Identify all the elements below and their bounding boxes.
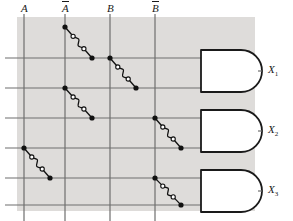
gate-x2-body bbox=[201, 110, 262, 152]
fuse-a-row5-open-circle-lower bbox=[40, 167, 44, 171]
fuse-b-row2-open-circle-lower bbox=[126, 77, 130, 81]
output-label-X3: X3 bbox=[268, 183, 278, 198]
fuse-bbar-row4-open-circle-lower bbox=[171, 137, 175, 141]
output-label-X2: X2 bbox=[268, 123, 278, 138]
fuse-b-row2-open-circle-upper bbox=[116, 65, 120, 69]
column-label-B: B bbox=[107, 2, 114, 14]
fuse-abar-row1-open-circle-lower bbox=[82, 47, 86, 51]
fuse-abar-row3-open-circle-lower bbox=[82, 107, 86, 111]
fuse-bbar-row4-node-row bbox=[178, 145, 183, 150]
output-subscript: 2 bbox=[275, 130, 279, 138]
fuse-abar-row1-node-column bbox=[62, 24, 67, 29]
fuse-abar-row3-node-column bbox=[62, 85, 67, 90]
fuse-abar-row3-open-circle-upper bbox=[71, 95, 75, 99]
fuse-bbar-row4-open-circle-upper bbox=[161, 125, 165, 129]
output-label-X1: X1 bbox=[268, 63, 278, 78]
fuse-b-row2-node-row bbox=[133, 85, 138, 90]
fuse-bbar-row4-node-column bbox=[152, 115, 157, 120]
output-subscript: 3 bbox=[275, 190, 279, 198]
fuse-bbar-row6-node-column bbox=[152, 175, 157, 180]
fuse-abar-row1-node-row bbox=[89, 55, 94, 60]
column-label-Abar: A bbox=[62, 2, 69, 14]
fuse-bbar-row6-open-circle-lower bbox=[171, 195, 175, 199]
fuse-a-row5-node-row bbox=[47, 175, 52, 180]
fuse-abar-row1-open-circle-upper bbox=[71, 34, 75, 38]
fuse-abar-row3-node-row bbox=[89, 115, 94, 120]
gate-x3-body bbox=[201, 170, 262, 212]
and-gates bbox=[201, 50, 262, 212]
column-label-A: A bbox=[21, 2, 28, 14]
overbar-text: A bbox=[62, 2, 69, 14]
fuse-bbar-row6-open-circle-upper bbox=[161, 184, 165, 188]
pla-diagram: AABB X1X2X3 bbox=[0, 0, 293, 221]
fuse-a-row5-node-column bbox=[21, 145, 26, 150]
pla-canvas bbox=[0, 0, 293, 221]
fuse-b-row2-node-column bbox=[107, 55, 112, 60]
column-label-Bbar: B bbox=[152, 2, 159, 14]
gate-x1-body bbox=[201, 50, 262, 92]
fuse-bbar-row6-node-row bbox=[178, 202, 183, 207]
fuse-a-row5-open-circle-upper bbox=[30, 155, 34, 159]
overbar-text: B bbox=[152, 2, 159, 14]
output-subscript: 1 bbox=[275, 70, 279, 78]
